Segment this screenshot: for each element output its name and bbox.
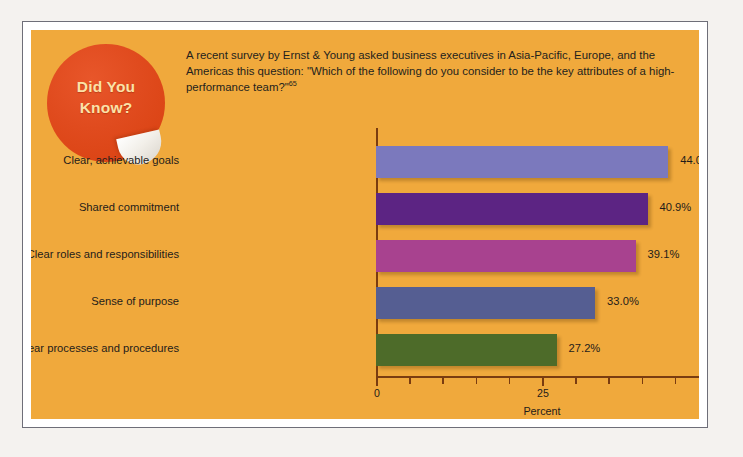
bar <box>376 287 595 319</box>
bar-category-label: Clear roles and responsibilities <box>31 248 179 260</box>
bar-row: Sense of purpose33.0% <box>31 281 699 327</box>
bar-value-label: 39.1% <box>648 248 680 260</box>
x-axis-tick <box>675 377 677 384</box>
x-axis-tick <box>442 377 444 384</box>
bar-category-label: Shared commitment <box>31 201 179 213</box>
bar-category-label: Sense of purpose <box>31 295 179 307</box>
x-axis-tick <box>642 377 644 384</box>
bar-category-label: Clear processes and procedures <box>31 342 179 354</box>
x-axis-tick <box>409 377 411 384</box>
bar-value-label: 27.2% <box>569 342 601 354</box>
x-axis-tick-label: 0 <box>374 387 380 399</box>
bar-value-label: 33.0% <box>607 295 639 307</box>
x-axis-tick <box>542 377 544 386</box>
figure-frame: Did You Know? A recent survey by Ernst &… <box>22 21 708 428</box>
badge-line-1: Did You <box>47 76 165 97</box>
x-axis-title: Percent <box>523 405 560 417</box>
x-axis-tick-label: 25 <box>537 387 549 399</box>
x-axis-tick <box>476 377 478 384</box>
x-axis-tick <box>376 377 378 386</box>
bar <box>376 146 668 178</box>
bar <box>376 193 648 225</box>
bar-row: Clear roles and responsibilities39.1% <box>31 234 699 280</box>
x-axis-tick <box>575 377 577 384</box>
badge-label: Did You Know? <box>47 76 165 118</box>
bar-row: Clear, achievable goals44.0% <box>31 140 699 186</box>
bar-row: Clear processes and procedures27.2% <box>31 328 699 374</box>
figure-page: Did You Know? A recent survey by Ernst &… <box>0 0 743 457</box>
bar <box>376 334 557 366</box>
intro-paragraph: A recent survey by Ernst & Young asked b… <box>186 47 686 96</box>
badge-line-2: Know? <box>47 97 165 118</box>
x-axis-tick <box>608 377 610 384</box>
bar-value-label: 40.9% <box>660 201 692 213</box>
orange-panel: Did You Know? A recent survey by Ernst &… <box>31 30 699 419</box>
bar <box>376 240 636 272</box>
x-axis-tick <box>509 377 511 384</box>
bar-category-label: Clear, achievable goals <box>31 154 179 166</box>
x-axis-line <box>376 376 699 378</box>
intro-text: A recent survey by Ernst & Young asked b… <box>186 49 674 93</box>
bar-value-label: 44.0% <box>680 154 699 166</box>
footnote-marker: 65 <box>289 80 297 89</box>
bar-row: Shared commitment40.9% <box>31 187 699 233</box>
bar-chart: Clear, achievable goals44.0%Shared commi… <box>31 128 699 418</box>
